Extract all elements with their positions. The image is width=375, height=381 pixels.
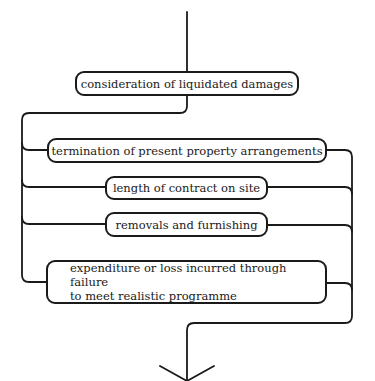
node-label: termination of present property arrangem…: [51, 144, 322, 158]
node-liquidated-damages: consideration of liquidated damages: [75, 71, 299, 96]
right-branch-length: [268, 187, 352, 194]
node-label-line1: expenditure or loss incurred through fai…: [70, 261, 325, 289]
node-label: length of contract on site: [113, 181, 260, 195]
right-branch-expenditure: [327, 283, 352, 290]
left-branch-removals: [22, 217, 105, 224]
node-length-of-contract: length of contract on site: [105, 176, 268, 200]
left-branch-length: [22, 180, 105, 187]
node-label: consideration of liquidated damages: [81, 77, 294, 91]
left-branch-termination: [22, 143, 47, 150]
node-expenditure: expenditure or loss incurred through fai…: [46, 260, 327, 304]
right-branch-removals: [268, 225, 352, 232]
node-label-block: expenditure or loss incurred through fai…: [70, 261, 325, 303]
node-label: removals and furnishing: [116, 218, 258, 232]
node-removals: removals and furnishing: [105, 212, 268, 237]
node-label-line2: to meet realistic programme: [70, 289, 325, 303]
node-termination: termination of present property arrangem…: [47, 138, 327, 163]
